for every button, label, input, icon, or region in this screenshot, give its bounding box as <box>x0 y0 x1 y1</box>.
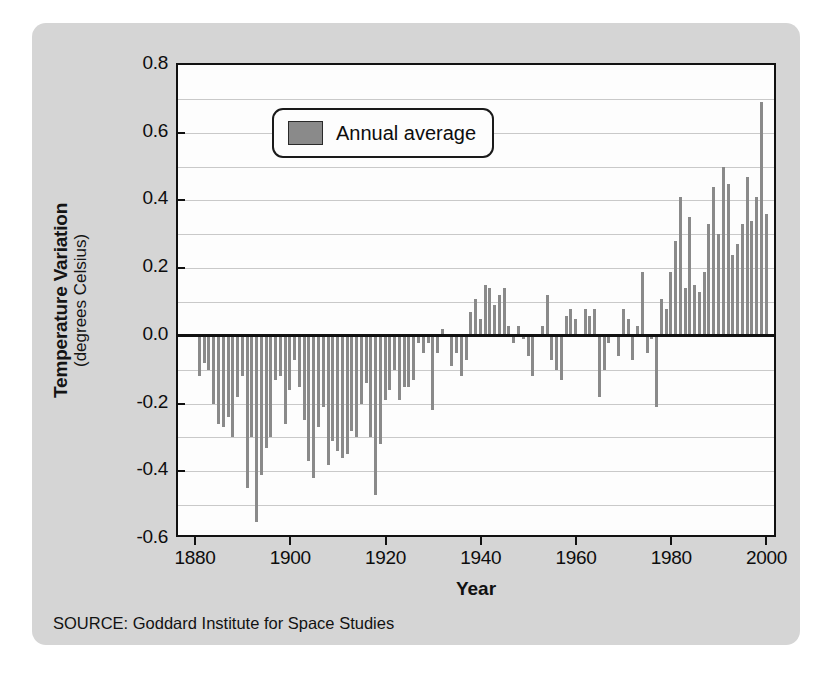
bar <box>298 336 301 387</box>
bar <box>288 336 291 390</box>
bar <box>398 336 401 400</box>
bar <box>593 309 596 336</box>
bar <box>341 336 344 458</box>
bar <box>374 336 377 495</box>
x-axis-tick-mark <box>385 537 387 545</box>
bar <box>322 336 325 407</box>
bar <box>307 336 310 461</box>
bar <box>279 336 282 377</box>
bar <box>369 336 372 438</box>
bar <box>746 177 749 336</box>
source-note: SOURCE: Goddard Institute for Space Stud… <box>53 614 394 633</box>
y-axis-tick-label: -0.4 <box>106 458 168 480</box>
y-axis-tick-mark <box>177 132 185 134</box>
bar <box>503 288 506 335</box>
y-axis-tick-label: 0.6 <box>106 120 168 142</box>
bar <box>598 336 601 397</box>
bar <box>350 336 353 431</box>
bar <box>622 309 625 336</box>
bar <box>212 336 215 404</box>
bar <box>665 309 668 336</box>
x-axis-tick-label: 1980 <box>651 547 692 569</box>
y-axis-tick-labels: 0.80.60.40.20.0-0.2-0.4-0.6 <box>98 0 168 695</box>
bar <box>198 336 201 377</box>
bar <box>712 187 715 336</box>
x-axis-tick-mark <box>575 537 577 545</box>
bar <box>236 336 239 397</box>
bar <box>760 102 763 336</box>
y-axis-tick-mark <box>177 267 185 269</box>
bar <box>265 336 268 448</box>
bar <box>584 309 587 336</box>
x-axis-tick-mark <box>765 537 767 545</box>
bar <box>284 336 287 424</box>
bar <box>646 336 649 353</box>
bar <box>493 305 496 335</box>
x-axis-tick-mark <box>289 537 291 545</box>
x-axis-tick-label: 1960 <box>555 547 596 569</box>
bar <box>669 272 672 336</box>
x-axis-tick-label: 2000 <box>746 547 787 569</box>
bar <box>484 285 487 336</box>
y-axis-tick-mark <box>177 470 185 472</box>
bar <box>217 336 220 424</box>
bar <box>450 336 453 366</box>
y-axis-tick-label: -0.6 <box>106 526 168 548</box>
bar <box>674 241 677 336</box>
bar <box>465 336 468 360</box>
bar <box>384 336 387 400</box>
bar <box>393 336 396 370</box>
bar <box>331 336 334 441</box>
bar <box>603 336 606 370</box>
bar <box>241 336 244 377</box>
legend-swatch-annual-average <box>288 121 323 145</box>
bar <box>736 244 739 335</box>
bar <box>703 272 706 336</box>
y-axis-tick-label: 0.4 <box>106 187 168 209</box>
bar <box>550 336 553 360</box>
bar <box>731 255 734 336</box>
bar <box>641 272 644 336</box>
bar <box>531 336 534 377</box>
bar <box>455 336 458 353</box>
bar <box>231 336 234 438</box>
y-axis-tick-label: -0.2 <box>106 391 168 413</box>
bar <box>260 336 263 475</box>
bar <box>203 336 206 363</box>
bar <box>407 336 410 387</box>
bar <box>336 336 339 451</box>
bar <box>741 224 744 336</box>
bar <box>269 336 272 438</box>
bar <box>360 336 363 404</box>
y-axis-title: Temperature Variation (degrees Celsius) <box>44 63 96 537</box>
bar <box>717 234 720 336</box>
bar <box>617 336 620 356</box>
x-axis-tick-mark <box>480 537 482 545</box>
bar <box>222 336 225 427</box>
bar <box>627 319 630 336</box>
bar <box>684 288 687 335</box>
bar <box>655 336 658 407</box>
bar <box>679 197 682 336</box>
bar <box>436 336 439 353</box>
bar <box>546 295 549 336</box>
bar <box>560 336 563 380</box>
bar <box>346 336 349 455</box>
y-axis-tick-label: 0.8 <box>106 52 168 74</box>
x-axis-tick-mark <box>670 537 672 545</box>
bar <box>755 197 758 336</box>
bar <box>227 336 230 417</box>
y-axis-title-line2: (degrees Celsius) <box>71 202 91 397</box>
bar <box>569 309 572 336</box>
bar <box>498 295 501 336</box>
bar <box>688 217 691 336</box>
bar <box>379 336 382 444</box>
x-axis-tick-mark <box>194 537 196 545</box>
bar <box>412 336 415 380</box>
bar <box>422 336 425 353</box>
bar <box>365 336 368 383</box>
bar <box>303 336 306 421</box>
bar <box>765 214 768 336</box>
bar <box>207 336 210 370</box>
y-axis-tick-mark <box>177 199 185 201</box>
